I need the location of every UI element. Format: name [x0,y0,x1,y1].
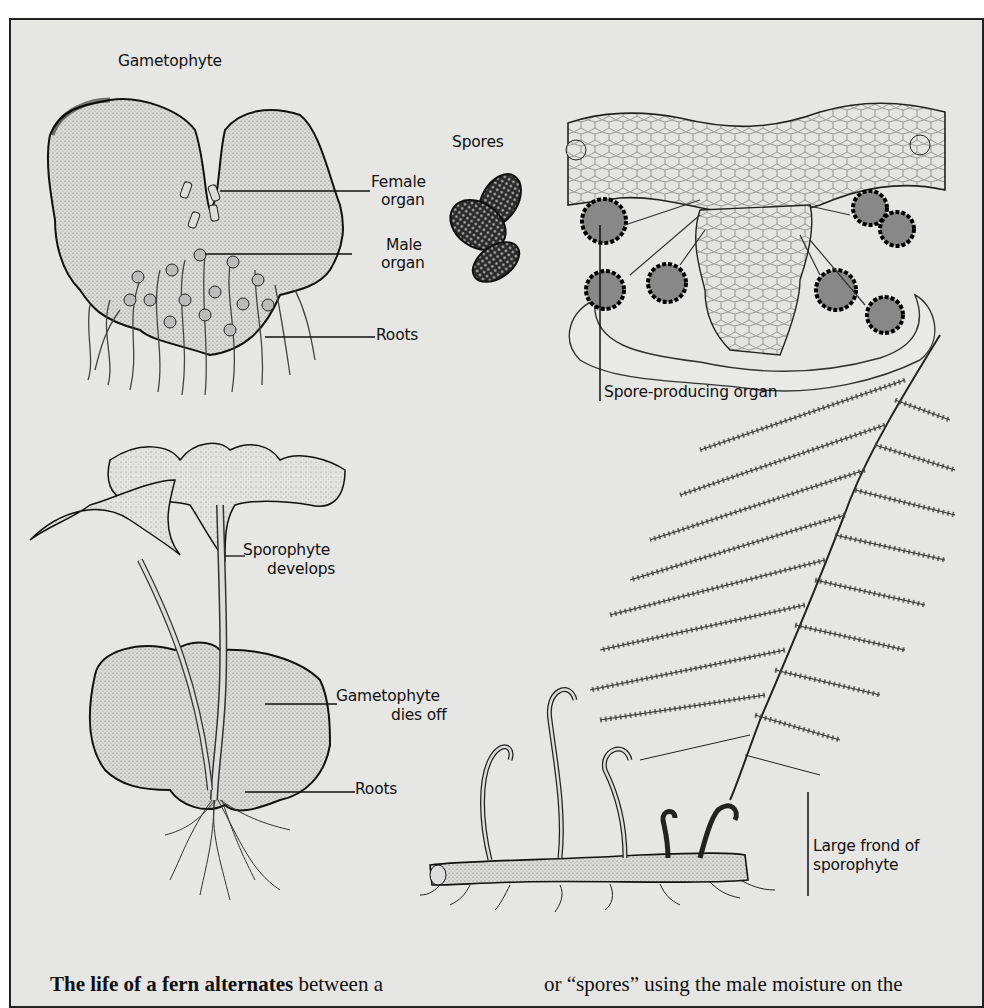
label-gametophyte: Gametophyte [118,52,222,71]
label-female-organ-line1: Female [371,173,426,192]
label-male-organ-line1: Male [386,236,422,255]
label-large-frond-line1: Large frond of [813,837,919,856]
figure-caption: The life of a fern alternates between a … [50,972,970,997]
caption-column-2: or “spores” using the male moisture on t… [544,972,903,997]
label-gametophyte-dies-off-line1: Gametophyte [336,687,440,706]
sorus-cross-section [566,103,945,391]
label-roots-bottom: Roots [355,780,397,799]
label-sporophyte-develops-line2: develops [267,560,335,579]
label-large-frond-line2: sporophyte [813,856,898,875]
large-frond-drawing [590,335,955,800]
label-spore-producing-organ: Spore-producing organ [604,383,777,402]
label-female-organ-line2: organ [381,191,425,210]
spores-drawing [441,167,530,290]
caption-lead-rest: between a [293,972,383,996]
young-sporophyte-drawing [30,443,345,900]
label-gametophyte-dies-off-line2: dies off [391,706,446,725]
caption-lead-bold: The life of a fern alternates [50,972,293,996]
label-spores: Spores [452,133,504,152]
gametophyte-drawing [48,99,343,395]
label-roots-top: Roots [376,326,418,345]
label-sporophyte-develops-line1: Sporophyte [243,541,330,560]
rhizome-fiddleheads-drawing [420,690,775,912]
label-male-organ-line2: organ [381,254,425,273]
